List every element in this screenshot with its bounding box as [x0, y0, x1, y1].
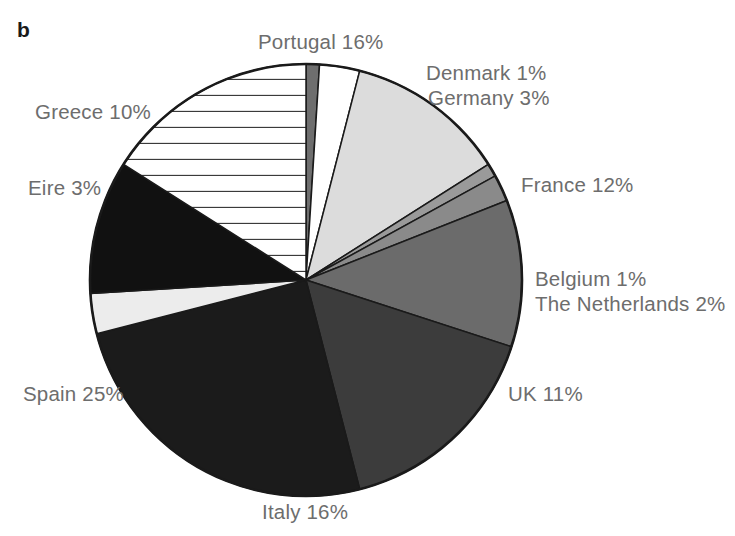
label-netherlands: The Netherlands 2% — [535, 293, 725, 316]
label-eire: Eire 3% — [28, 177, 101, 200]
pie-slice-group — [90, 64, 522, 496]
label-denmark: Denmark 1% — [426, 62, 547, 85]
label-portugal: Portugal 16% — [258, 31, 383, 54]
label-italy: Italy 16% — [262, 501, 348, 524]
label-france: France 12% — [521, 174, 634, 197]
figure-panel: b Portugal 16% Denmark 1% Germany 3% Fra… — [0, 0, 735, 536]
label-germany: Germany 3% — [428, 87, 550, 110]
label-belgium: Belgium 1% — [535, 268, 646, 291]
label-uk: UK 11% — [508, 383, 583, 406]
label-greece: Greece 10% — [35, 101, 151, 124]
label-spain: Spain 25% — [23, 383, 124, 406]
